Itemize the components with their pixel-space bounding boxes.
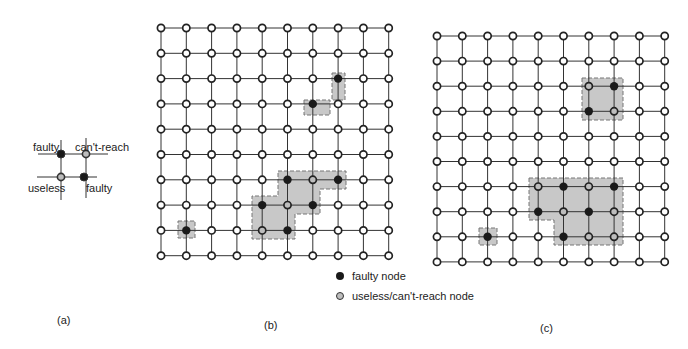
faulty-node-icon — [283, 226, 291, 234]
mesh-node-icon — [157, 50, 164, 57]
mesh-node-icon — [509, 158, 516, 165]
mesh-c — [433, 32, 668, 265]
useless-node-icon — [585, 233, 592, 240]
useless-node-icon — [535, 183, 542, 190]
mesh-node-icon — [183, 176, 190, 183]
legend-faulty: faulty node — [336, 270, 406, 282]
mesh-node-icon — [636, 83, 643, 90]
mesh-node-icon — [385, 126, 392, 133]
mesh-node-icon — [560, 58, 567, 65]
mesh-node-icon — [459, 183, 466, 190]
useless-node-icon — [336, 292, 344, 300]
mesh-node-icon — [233, 75, 240, 82]
mesh-node-icon — [335, 202, 342, 209]
mesh-node-icon — [259, 151, 266, 158]
mesh-node-icon — [560, 32, 567, 39]
mesh-node-icon — [309, 50, 316, 57]
mesh-node-icon — [636, 133, 643, 140]
mesh-node-icon — [661, 208, 668, 215]
mesh-node-icon — [611, 32, 618, 39]
mesh-node-icon — [484, 32, 491, 39]
mesh-node-icon — [433, 58, 440, 65]
mesh-node-icon — [233, 50, 240, 57]
mesh-node-icon — [208, 176, 215, 183]
fault-region — [304, 100, 330, 115]
mesh-node-icon — [585, 133, 592, 140]
mesh-node-icon — [284, 50, 291, 57]
mesh-node-icon — [509, 208, 516, 215]
mesh-node-icon — [585, 58, 592, 65]
mesh-node-icon — [661, 158, 668, 165]
mesh-node-icon — [433, 133, 440, 140]
mesh-node-icon — [433, 32, 440, 39]
mesh-node-icon — [535, 58, 542, 65]
faulty-node-icon — [559, 182, 567, 190]
mesh-node-icon — [157, 227, 164, 234]
mesh-node-icon — [459, 233, 466, 240]
mesh-node-icon — [335, 50, 342, 57]
mesh-node-icon — [309, 252, 316, 259]
mesh-node-icon — [208, 75, 215, 82]
mesh-node-icon — [636, 258, 643, 265]
faulty-node-icon — [483, 233, 491, 241]
caption-b: (b) — [264, 319, 277, 331]
mesh-node-icon — [259, 176, 266, 183]
mesh-node-icon — [433, 233, 440, 240]
mesh-node-icon — [360, 75, 367, 82]
mesh-node-icon — [233, 176, 240, 183]
mesh-node-icon — [183, 252, 190, 259]
mesh-node-icon — [335, 126, 342, 133]
mesh-node-icon — [183, 100, 190, 107]
mesh-node-icon — [157, 202, 164, 209]
mesh-node-icon — [484, 133, 491, 140]
faulty-node-icon — [258, 201, 266, 209]
mesh-node-icon — [484, 258, 491, 265]
mesh-node-icon — [661, 108, 668, 115]
mesh-node-icon — [309, 24, 316, 31]
mesh-node-icon — [208, 227, 215, 234]
mesh-node-icon — [661, 183, 668, 190]
mesh-node-icon — [459, 108, 466, 115]
mesh-node-icon — [459, 83, 466, 90]
mesh-node-icon — [433, 258, 440, 265]
faulty-node-icon — [559, 233, 567, 241]
useless-node-icon — [309, 176, 316, 183]
faulty-node-icon — [610, 182, 618, 190]
label-useless: useless — [28, 182, 65, 194]
mesh-node-icon — [661, 233, 668, 240]
mesh-node-icon — [233, 126, 240, 133]
mesh-node-icon — [535, 108, 542, 115]
mesh-node-icon — [284, 151, 291, 158]
mesh-node-icon — [560, 133, 567, 140]
faulty-node-icon — [283, 176, 291, 184]
mesh-node-icon — [360, 50, 367, 57]
mesh-node-icon — [385, 100, 392, 107]
mesh-node-icon — [385, 252, 392, 259]
mesh-node-icon — [157, 100, 164, 107]
mesh-node-icon — [484, 58, 491, 65]
mesh-node-icon — [385, 50, 392, 57]
caption-a: (a) — [57, 314, 70, 326]
mesh-node-icon — [509, 233, 516, 240]
mesh-node-icon — [233, 252, 240, 259]
useless-node-icon — [259, 227, 266, 234]
mesh-node-icon — [484, 158, 491, 165]
mesh-node-icon — [335, 151, 342, 158]
mesh-node-icon — [233, 100, 240, 107]
useless-node-icon — [611, 208, 618, 215]
mesh-node-icon — [208, 50, 215, 57]
mesh-node-icon — [560, 108, 567, 115]
mesh-node-icon — [535, 258, 542, 265]
mesh-node-icon — [459, 133, 466, 140]
useless-node-icon — [284, 202, 291, 209]
mesh-node-icon — [284, 252, 291, 259]
mesh-node-icon — [360, 151, 367, 158]
mesh-node-icon — [535, 32, 542, 39]
mesh-node-icon — [157, 252, 164, 259]
mesh-node-icon — [509, 258, 516, 265]
mesh-node-icon — [661, 133, 668, 140]
mesh-node-icon — [233, 202, 240, 209]
mesh-node-icon — [360, 202, 367, 209]
mesh-node-icon — [360, 252, 367, 259]
faulty-node-icon — [309, 100, 317, 108]
